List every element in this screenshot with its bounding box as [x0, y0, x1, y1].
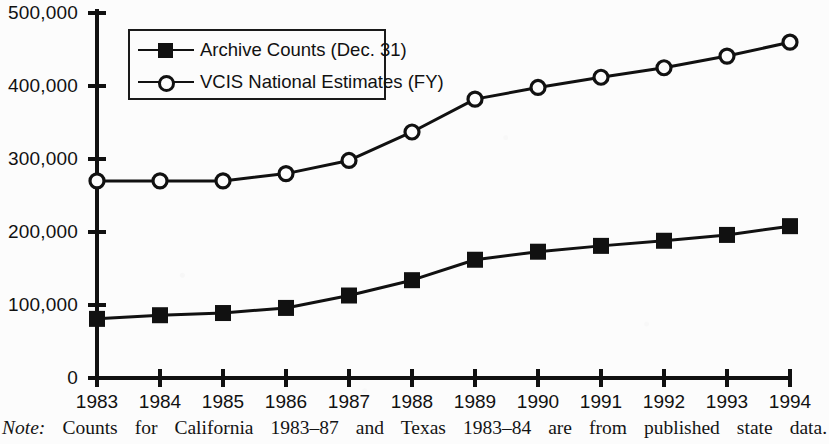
data-point-marker-open-circle — [783, 35, 797, 49]
x-axis-tick-label: 1984 — [129, 392, 191, 411]
chart-legend: Archive Counts (Dec. 31) VCIS National E… — [128, 29, 386, 100]
x-axis-tick-label: 1992 — [633, 392, 695, 411]
legend-label-archive-counts: Archive Counts (Dec. 31) — [200, 39, 407, 61]
data-point-marker-filled-square — [278, 300, 294, 316]
y-axis-tick-label: 500,000 — [0, 3, 78, 22]
data-point-marker-filled-square — [719, 227, 735, 243]
chart-svg — [0, 0, 829, 414]
data-point-marker-filled-square — [782, 218, 798, 234]
x-axis-tick-label: 1993 — [696, 392, 758, 411]
x-axis-tick-label: 1987 — [318, 392, 380, 411]
data-point-marker-filled-square — [89, 311, 105, 327]
legend-key-filled-square-icon — [138, 40, 194, 60]
data-point-marker-filled-square — [656, 233, 672, 249]
y-axis-tick-label: 0 — [0, 368, 78, 387]
data-point-marker-open-circle — [342, 153, 356, 167]
x-axis-tick-label: 1994 — [759, 392, 821, 411]
data-point-marker-filled-square — [530, 244, 546, 260]
x-axis-tick-label: 1989 — [444, 392, 506, 411]
x-axis-tick-label: 1991 — [570, 392, 632, 411]
x-axis-tick-label: 1985 — [192, 392, 254, 411]
x-axis-tick-label: 1983 — [66, 392, 128, 411]
series-line-filled-square — [97, 226, 790, 319]
data-point-marker-open-circle — [153, 174, 167, 188]
data-point-marker-filled-square — [593, 238, 609, 254]
data-point-marker-filled-square — [152, 307, 168, 323]
data-point-marker-open-circle — [720, 49, 734, 63]
figure-page: 0100,000200,000300,000400,000500,000 198… — [0, 0, 829, 444]
y-axis-tick-label: 100,000 — [0, 295, 78, 314]
data-point-marker-filled-square — [215, 305, 231, 321]
open-circle-marker-icon — [158, 75, 175, 92]
data-point-marker-filled-square — [467, 252, 483, 268]
data-point-marker-open-circle — [594, 70, 608, 84]
y-axis-tick-label: 300,000 — [0, 149, 78, 168]
footnote-label: Note: — [2, 417, 45, 438]
figure-footnote: Note: Counts for California 1983–87 and … — [2, 417, 827, 438]
x-axis-tick-label: 1990 — [507, 392, 569, 411]
y-axis-tick-label: 400,000 — [0, 76, 78, 95]
data-point-marker-open-circle — [405, 125, 419, 139]
x-axis-tick-label: 1986 — [255, 392, 317, 411]
legend-label-vcis-estimates: VCIS National Estimates (FY) — [200, 71, 444, 93]
legend-entry-vcis-estimates: VCIS National Estimates (FY) — [138, 70, 444, 94]
data-point-marker-open-circle — [657, 61, 671, 75]
x-axis-tick-label: 1988 — [381, 392, 443, 411]
data-point-marker-open-circle — [90, 174, 104, 188]
footnote-body: Counts for California 1983–87 and Texas … — [62, 417, 827, 438]
data-point-marker-open-circle — [468, 92, 482, 106]
legend-key-open-circle-icon — [138, 72, 194, 92]
y-axis-tick-label: 200,000 — [0, 222, 78, 241]
data-point-marker-open-circle — [531, 80, 545, 94]
data-point-marker-open-circle — [279, 167, 293, 181]
data-point-marker-open-circle — [216, 174, 230, 188]
legend-entry-archive-counts: Archive Counts (Dec. 31) — [138, 38, 407, 62]
data-point-marker-filled-square — [404, 272, 420, 288]
filled-square-marker-icon — [158, 43, 173, 58]
chart-plot-area: 0100,000200,000300,000400,000500,000 198… — [0, 0, 829, 414]
data-point-marker-filled-square — [341, 288, 357, 304]
